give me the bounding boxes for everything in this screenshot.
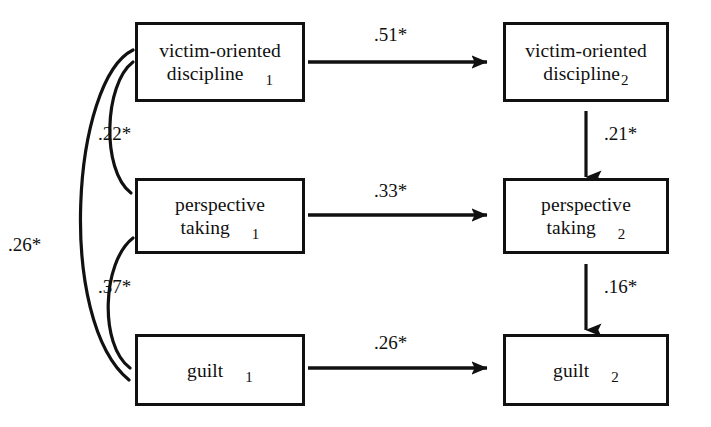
node-label-text: discipline [543,62,620,85]
node-label-text: taking [181,216,230,239]
node-label-line2: taking 1 [181,216,260,239]
path-label-vod1-with-pt1: .22* [98,123,131,145]
node-victim-oriented-discipline-1[interactable]: victim-oriented discipline 1 [135,22,305,102]
node-label-line2: taking 2 [547,216,626,239]
node-label-text: guilt [187,359,223,382]
path-label-pt1-to-pt2: .33* [374,180,407,202]
path-label-vod2-to-pt2: .21* [604,123,637,145]
path-label-pt2-to-guilt2: .16* [604,276,637,298]
path-label-vod1-to-vod2: .51* [374,24,407,46]
node-label-line2: guilt 1 [187,359,253,382]
node-wave-subscript: 2 [618,226,626,244]
node-label-line1: perspective [175,193,265,216]
node-perspective-taking-2[interactable]: perspective taking 2 [503,178,669,254]
node-wave-subscript: 1 [266,72,274,90]
node-label-line1: victim-oriented [525,39,647,62]
path-diagram: victim-oriented discipline 1 perspective… [0,0,711,427]
node-wave-subscript: 1 [245,369,253,387]
node-wave-subscript: 2 [611,369,619,387]
node-label-text: guilt [553,359,589,382]
node-wave-subscript: 1 [252,226,260,244]
node-label-line1: victim-oriented [159,39,281,62]
node-victim-oriented-discipline-2[interactable]: victim-oriented discipline 2 [503,22,669,102]
path-label-vod1-with-guilt1: .26* [8,234,41,256]
node-guilt-2[interactable]: guilt 2 [503,334,669,406]
node-label-line2: discipline 2 [543,62,628,85]
path-label-pt1-with-guilt1: .37* [98,276,131,298]
node-label-text: taking [547,216,596,239]
path-label-guilt1-to-guilt2: .26* [374,332,407,354]
curve-pt1-with-guilt1 [108,238,133,368]
node-label-text: discipline [167,62,244,85]
node-guilt-1[interactable]: guilt 1 [135,334,305,406]
node-wave-subscript: 2 [621,72,629,90]
node-label-line2: guilt 2 [553,359,619,382]
node-perspective-taking-1[interactable]: perspective taking 1 [135,178,305,254]
node-label-line1: perspective [541,193,631,216]
curve-vod1-with-guilt1 [80,50,133,380]
node-label-line2: discipline 1 [167,62,273,85]
